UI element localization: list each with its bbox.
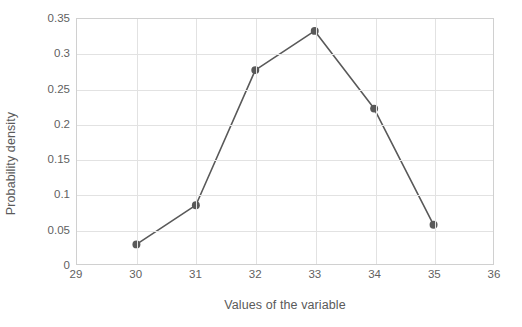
y-axis-tick-label: 0.25 — [10, 83, 70, 95]
y-axis-tick-label: 0.15 — [10, 153, 70, 165]
gridline-horizontal — [77, 195, 493, 196]
data-point-marker — [311, 27, 319, 35]
gridline-vertical — [256, 19, 257, 264]
x-axis-tick-label: 31 — [175, 268, 215, 280]
y-axis-tick-label: 0.2 — [10, 118, 70, 130]
gridline-vertical — [316, 19, 317, 264]
x-axis-tick-label: 30 — [116, 268, 156, 280]
series-line — [136, 31, 433, 244]
x-axis-tick-label: 35 — [414, 268, 454, 280]
line-chart: Probability density 00.050.10.150.20.250… — [0, 0, 522, 327]
x-axis-tick-label: 32 — [235, 268, 275, 280]
y-axis-tick-label: 0.05 — [10, 224, 70, 236]
plot-area — [76, 18, 494, 265]
gridline-vertical — [137, 19, 138, 264]
x-axis-tick-label: 33 — [295, 268, 335, 280]
y-axis-tick-label: 0.3 — [10, 47, 70, 59]
x-axis-title: Values of the variable — [76, 298, 494, 312]
data-point-marker — [430, 221, 438, 229]
gridline-vertical — [435, 19, 436, 264]
gridline-horizontal — [77, 54, 493, 55]
gridline-horizontal — [77, 231, 493, 232]
gridline-vertical — [196, 19, 197, 264]
x-axis-tick-label: 29 — [56, 268, 96, 280]
y-axis-tick-label: 0.35 — [10, 12, 70, 24]
gridline-vertical — [376, 19, 377, 264]
gridline-horizontal — [77, 19, 493, 20]
x-axis-tick-label: 36 — [474, 268, 514, 280]
gridline-horizontal — [77, 160, 493, 161]
y-axis-tick-label: 0.1 — [10, 188, 70, 200]
gridline-horizontal — [77, 90, 493, 91]
series-line-probability-density — [77, 19, 493, 264]
x-axis-tick-label: 34 — [355, 268, 395, 280]
gridline-horizontal — [77, 125, 493, 126]
